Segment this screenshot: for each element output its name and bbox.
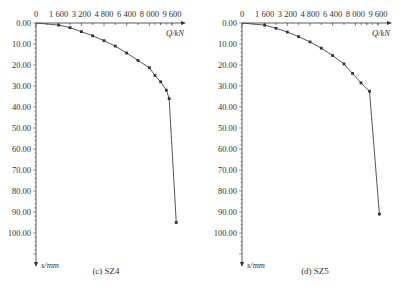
x-axis-arrow-icon <box>387 21 392 25</box>
y-axis-title: s/mm <box>247 260 265 270</box>
data-point-marker <box>297 35 300 38</box>
data-point-marker <box>309 41 312 44</box>
data-point-marker <box>360 81 363 84</box>
data-point-marker <box>275 27 278 30</box>
y-tick-label: 80.00 <box>12 186 31 196</box>
data-line <box>36 23 176 223</box>
y-tick-label: 10.00 <box>218 39 237 49</box>
x-tick-label: 3 200 <box>72 9 91 19</box>
x-tick-label: 4 800 <box>300 9 319 19</box>
x-tick-label: 4 800 <box>94 9 113 19</box>
data-point-marker <box>343 63 346 66</box>
data-point-marker <box>69 26 72 29</box>
x-tick-label: 9 600 <box>368 9 387 19</box>
y-tick-label: 20.00 <box>218 60 237 70</box>
data-point-marker <box>137 59 140 62</box>
data-line <box>242 23 379 214</box>
data-point-marker <box>320 47 323 50</box>
y-tick-label: 90.00 <box>12 207 31 217</box>
y-tick-label: 100.00 <box>8 228 31 238</box>
x-tick-label: 8 000 <box>346 9 365 19</box>
y-tick-label: 10.00 <box>12 39 31 49</box>
data-point-marker <box>378 213 381 216</box>
data-point-marker <box>57 24 60 27</box>
x-tick-label: 3 200 <box>278 9 297 19</box>
y-tick-label: 0.00 <box>16 18 31 28</box>
x-tick-label: 6 400 <box>117 9 136 19</box>
data-point-marker <box>351 72 354 75</box>
y-tick-label: 70.00 <box>12 165 31 175</box>
data-point-marker <box>165 89 168 92</box>
data-point-marker <box>154 74 157 77</box>
y-tick-label: 50.00 <box>218 123 237 133</box>
y-tick-label: 70.00 <box>218 165 237 175</box>
x-tick-label: 8 000 <box>140 9 159 19</box>
x-axis-title: Q/kN <box>372 28 391 38</box>
x-axis-title: Q/kN <box>166 28 185 38</box>
data-point-marker <box>263 24 266 27</box>
data-point-marker <box>125 52 128 55</box>
y-tick-label: 30.00 <box>218 81 237 91</box>
data-point-marker <box>91 34 94 37</box>
x-tick-label: 1 600 <box>49 9 68 19</box>
y-tick-label: 30.00 <box>12 81 31 91</box>
chart-panel-sz4: 01 6003 2004 8006 4008 0009 6000.0010.00… <box>8 9 186 276</box>
data-point-marker <box>114 45 117 48</box>
data-point-marker <box>159 80 162 83</box>
data-point-marker <box>368 90 371 93</box>
y-axis-arrow-icon <box>240 262 244 267</box>
y-tick-label: 0.00 <box>222 18 237 28</box>
y-tick-label: 50.00 <box>12 123 31 133</box>
y-tick-label: 100.00 <box>214 228 237 238</box>
data-point-marker <box>175 221 178 224</box>
y-tick-label: 90.00 <box>218 207 237 217</box>
x-axis-arrow-icon <box>181 21 186 25</box>
x-tick-label: 6 400 <box>323 9 342 19</box>
x-tick-label: 0 <box>34 9 38 19</box>
data-point-marker <box>286 31 289 34</box>
y-axis-title: s/mm <box>41 260 59 270</box>
y-axis-arrow-icon <box>34 262 38 267</box>
x-tick-label: 9 600 <box>162 9 181 19</box>
y-tick-label: 40.00 <box>12 102 31 112</box>
chart-panel-sz5: 01 6003 2004 8006 4008 0009 6000.0010.00… <box>214 9 392 276</box>
data-point-marker <box>103 39 106 42</box>
y-tick-label: 60.00 <box>218 144 237 154</box>
y-tick-label: 20.00 <box>12 60 31 70</box>
data-point-marker <box>331 54 334 57</box>
x-tick-label: 0 <box>240 9 244 19</box>
x-tick-label: 1 600 <box>255 9 274 19</box>
y-tick-label: 60.00 <box>12 144 31 154</box>
data-point-marker <box>80 30 83 33</box>
data-point-marker <box>148 66 151 69</box>
y-tick-label: 80.00 <box>218 186 237 196</box>
chart-caption: (c) SZ4 <box>92 266 120 276</box>
data-point-marker <box>168 97 171 100</box>
chart-caption: (d) SZ5 <box>301 266 329 276</box>
y-tick-label: 40.00 <box>218 102 237 112</box>
chart-canvas: 01 6003 2004 8006 4008 0009 6000.0010.00… <box>0 0 406 289</box>
